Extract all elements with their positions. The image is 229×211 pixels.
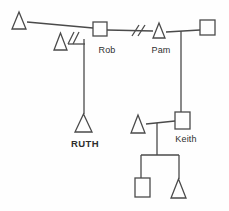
node-square-top-right xyxy=(200,20,215,35)
label-ruth: RUTH xyxy=(71,138,99,149)
node-triangle-top-left xyxy=(12,12,26,29)
slashes-rob-separated-1 xyxy=(73,32,79,44)
node-square-grandchild xyxy=(135,178,150,197)
node-triangle-ruth xyxy=(75,114,92,132)
node-square-rob xyxy=(93,22,107,36)
node-triangle-grandchild xyxy=(171,179,186,198)
label-rob: Rob xyxy=(98,45,115,55)
node-triangle-separated xyxy=(54,33,67,50)
edge-union-rob-pam xyxy=(107,30,153,31)
slashes-rob-separated-0 xyxy=(68,32,74,44)
genogram-diagram: Rob Pam RUTH Keith xyxy=(0,0,229,211)
node-triangle-keith-partner xyxy=(131,115,145,133)
genogram-canvas xyxy=(0,0,229,211)
edge-union-keith-partner xyxy=(146,121,175,124)
label-pam: Pam xyxy=(151,45,170,55)
node-triangle-pam xyxy=(153,23,165,38)
label-keith: Keith xyxy=(175,134,197,144)
edge-union-pam-topright xyxy=(166,30,200,32)
node-square-keith xyxy=(175,112,190,129)
edge-union-topleft-rob xyxy=(27,22,93,28)
